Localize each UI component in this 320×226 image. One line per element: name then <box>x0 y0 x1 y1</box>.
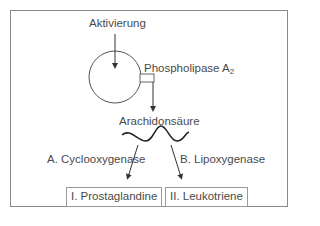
enzyme-subscript: 2 <box>230 67 234 76</box>
pathway-a-label: A. Cyclooxygenase <box>47 154 145 166</box>
arachidonic-acid-wave <box>122 126 189 141</box>
product-leukotriene-box: II. Leukotriene <box>165 187 248 207</box>
enzyme-name: Phospholipase A <box>144 62 230 74</box>
activation-label: Aktivierung <box>89 18 146 30</box>
pathway-b-label: B. Lipoxygenase <box>180 154 265 166</box>
enzyme-label: Phospholipase A2 <box>144 63 234 76</box>
substrate-label: Arachidonsäure <box>119 116 200 128</box>
product-prostaglandine-box: I. Prostaglandine <box>66 187 162 207</box>
